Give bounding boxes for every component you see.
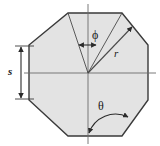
- octagon-diagram-svg: [0, 0, 160, 146]
- label-across-flats-s: s: [8, 66, 12, 77]
- label-half-central-angle-phi: ϕ: [92, 29, 98, 41]
- octagon-figure: s r ϕ θ: [0, 0, 160, 146]
- label-circumradius-r: r: [114, 48, 118, 59]
- label-interior-angle-theta: θ: [98, 100, 104, 112]
- octagon-body: [29, 13, 148, 136]
